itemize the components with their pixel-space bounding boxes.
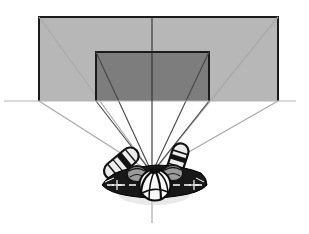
viewer-head — [140, 169, 171, 201]
diagram-svg — [0, 0, 309, 234]
diagram-canvas — [0, 0, 309, 234]
